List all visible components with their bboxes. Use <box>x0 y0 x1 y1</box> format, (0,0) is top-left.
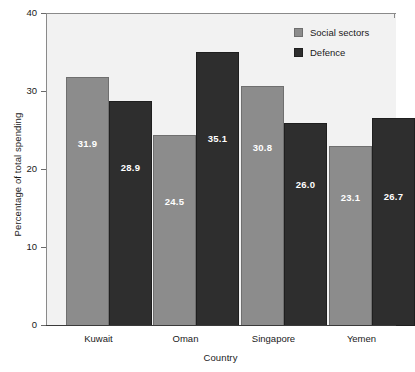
bar-value-oman-social-sectors: 24.5 <box>154 196 195 207</box>
x-axis-line <box>46 325 396 326</box>
bar-singapore-social-sectors: 30.8 <box>241 86 284 326</box>
top-right-tick <box>394 13 395 18</box>
y-axis-title: Percentage of total spending <box>12 65 23 285</box>
legend-item-defence: Defence <box>294 47 369 58</box>
bar-singapore-defence: 26.0 <box>284 123 327 326</box>
bar-value-singapore-social-sectors: 30.8 <box>242 142 283 153</box>
bar-value-kuwait-social-sectors: 31.9 <box>67 138 108 149</box>
bar-value-yemen-defence: 26.7 <box>373 191 414 202</box>
y-tick-label-40: 40 <box>26 7 37 18</box>
y-tick-label-10: 10 <box>26 241 37 252</box>
bar-yemen-social-sectors: 23.1 <box>329 146 372 326</box>
legend: Social sectors Defence <box>294 27 369 67</box>
bar-kuwait-social-sectors: 31.9 <box>66 77 109 326</box>
bar-value-kuwait-defence: 28.9 <box>110 162 151 173</box>
bar-value-yemen-social-sectors: 23.1 <box>330 192 371 203</box>
bar-value-singapore-defence: 26.0 <box>285 179 326 190</box>
x-axis-title: Country <box>46 352 395 363</box>
bar-value-oman-defence: 35.1 <box>197 133 238 144</box>
bar-oman-social-sectors: 24.5 <box>153 135 196 326</box>
legend-label-defence: Defence <box>310 47 345 58</box>
bar-oman-defence: 35.1 <box>196 52 239 326</box>
bar-yemen-defence: 26.7 <box>372 118 415 326</box>
legend-swatch-defence-icon <box>294 48 303 57</box>
legend-item-social-sectors: Social sectors <box>294 27 369 38</box>
legend-label-social-sectors: Social sectors <box>310 27 369 38</box>
x-category-label-yemen: Yemen <box>309 333 414 344</box>
legend-swatch-social-sectors-icon <box>294 28 303 37</box>
y-tick-label-0: 0 <box>32 319 37 330</box>
bar-kuwait-defence: 28.9 <box>109 101 152 326</box>
y-tick-label-20: 20 <box>26 163 37 174</box>
y-tick-label-30: 30 <box>26 85 37 96</box>
